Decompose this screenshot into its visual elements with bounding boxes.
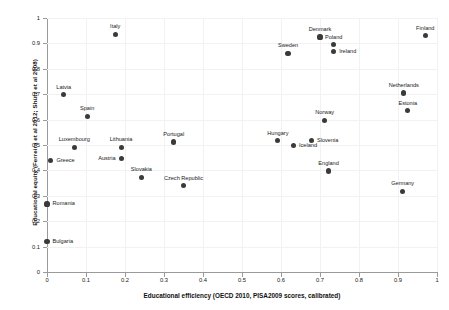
gridline-horizontal bbox=[47, 196, 437, 197]
data-point-label: Ireland bbox=[339, 49, 356, 55]
y-tick-label: 1 bbox=[10, 15, 40, 21]
data-point-label: Spain bbox=[80, 106, 94, 112]
x-tick-label: 0.6 bbox=[266, 277, 296, 283]
data-point-marker bbox=[72, 145, 77, 150]
data-point-marker bbox=[405, 108, 410, 113]
gridline-horizontal bbox=[47, 145, 437, 146]
data-point-label: Slovakia bbox=[131, 167, 152, 173]
data-point-label: Denmark bbox=[309, 27, 332, 33]
data-point-label: Lithuania bbox=[110, 137, 133, 143]
data-point-marker bbox=[139, 175, 144, 180]
data-point-marker bbox=[291, 143, 296, 148]
gridline-horizontal bbox=[47, 170, 437, 171]
x-tick-label: 0.8 bbox=[344, 277, 374, 283]
data-point-label: Latvia bbox=[56, 85, 71, 91]
plot-area: ItalyDenmarkFinlandPolandSwedenIrelandNe… bbox=[47, 18, 437, 272]
data-point-marker bbox=[44, 239, 49, 244]
data-point-label: Iceland bbox=[299, 143, 317, 149]
data-point-label: Netherlands bbox=[389, 83, 419, 89]
gridline-horizontal bbox=[47, 247, 437, 248]
data-point-marker bbox=[275, 138, 280, 143]
data-point-marker bbox=[285, 51, 290, 56]
data-point-marker bbox=[401, 90, 406, 95]
x-tick-label: 1 bbox=[422, 277, 449, 283]
y-tick-label: 0.4 bbox=[10, 167, 40, 173]
x-tick-label: 0.4 bbox=[188, 277, 218, 283]
data-point-marker bbox=[423, 33, 428, 38]
data-point-marker bbox=[119, 145, 124, 150]
x-tick-label: 0.2 bbox=[110, 277, 140, 283]
gridline-horizontal bbox=[47, 94, 437, 95]
data-point-label: Sweden bbox=[278, 43, 298, 49]
data-point-label: Hungary bbox=[267, 131, 288, 137]
x-axis-title: Educational efficiency (OECD 2010, PISA2… bbox=[47, 292, 437, 299]
data-point-marker bbox=[400, 189, 405, 194]
data-point-label: Poland bbox=[325, 35, 342, 41]
data-point-marker bbox=[322, 118, 327, 123]
data-point-label: Greece bbox=[56, 158, 74, 164]
data-point-label: Italy bbox=[110, 24, 120, 30]
data-point-marker bbox=[48, 158, 53, 163]
data-point-label: Austria bbox=[98, 156, 115, 162]
data-point-label: Bulgaria bbox=[53, 239, 74, 245]
y-tick-label: 0.9 bbox=[10, 40, 40, 46]
data-point-label: Romania bbox=[53, 201, 75, 207]
y-tick-label: 0.5 bbox=[10, 142, 40, 148]
gridline-horizontal bbox=[47, 120, 437, 121]
y-tick-label: 0 bbox=[10, 269, 40, 275]
gridline-horizontal bbox=[47, 43, 437, 44]
gridline-horizontal bbox=[47, 69, 437, 70]
data-point-marker bbox=[326, 168, 331, 173]
gridline-horizontal bbox=[47, 18, 437, 19]
data-point-marker bbox=[44, 201, 49, 206]
data-point-marker bbox=[61, 92, 66, 97]
data-point-label: Finland bbox=[416, 26, 434, 32]
y-tick-label: 0.7 bbox=[10, 91, 40, 97]
data-point-label: Germany bbox=[391, 181, 414, 187]
data-point-label: England bbox=[318, 161, 339, 167]
data-point-label: Estonia bbox=[398, 101, 417, 107]
x-tick-label: 0.3 bbox=[149, 277, 179, 283]
data-point-marker bbox=[181, 183, 186, 188]
x-tick-label: 0.7 bbox=[305, 277, 335, 283]
data-point-label: Norway bbox=[315, 110, 334, 116]
data-point-marker bbox=[85, 114, 90, 119]
x-tick-label: 0.9 bbox=[383, 277, 413, 283]
data-point-marker bbox=[317, 34, 322, 39]
x-tick-label: 0.1 bbox=[71, 277, 101, 283]
data-point-label: Czech Republic bbox=[164, 176, 203, 182]
data-point-marker bbox=[331, 42, 336, 47]
data-point-marker bbox=[113, 32, 118, 37]
data-point-label: Slovenia bbox=[317, 138, 338, 144]
gridline-horizontal bbox=[47, 221, 437, 222]
data-point-marker bbox=[119, 156, 124, 161]
scatter-chart-figure: Educational equity (Ferreira et al 2012;… bbox=[0, 0, 449, 310]
gridline-vertical bbox=[437, 18, 438, 272]
data-point-label: Luxembourg bbox=[59, 137, 90, 143]
data-point-marker bbox=[331, 49, 336, 54]
y-tick-label: 0.1 bbox=[10, 244, 40, 250]
y-tick-label: 0.6 bbox=[10, 117, 40, 123]
x-tick-label: 0 bbox=[32, 277, 62, 283]
y-tick-label: 0.8 bbox=[10, 66, 40, 72]
x-tick-label: 0.5 bbox=[227, 277, 257, 283]
data-point-marker bbox=[171, 139, 176, 144]
y-tick-label: 0.3 bbox=[10, 193, 40, 199]
data-point-label: Portugal bbox=[163, 132, 184, 138]
y-tick-label: 0.2 bbox=[10, 218, 40, 224]
